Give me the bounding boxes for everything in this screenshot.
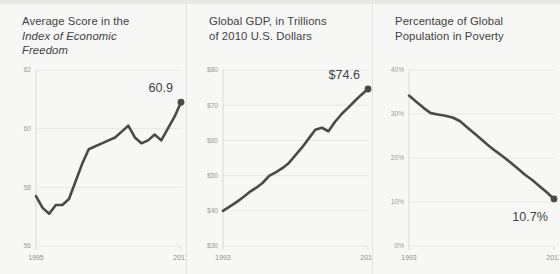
chart-end-point-marker <box>365 86 372 93</box>
chart-plot-global-gdp: $80$70$60$50$40$3019932015$74.6 <box>187 4 373 274</box>
chart-series-line <box>223 89 368 211</box>
y-axis-tick-label: 58 <box>24 184 32 191</box>
x-axis-tick-label: 1993 <box>215 254 230 261</box>
y-axis-tick-label: $50 <box>207 172 218 179</box>
chart-plot-economic-freedom: 626058561995201760.9 <box>0 4 186 274</box>
y-axis-tick-label: 40% <box>391 66 404 73</box>
y-axis-tick-label: 20% <box>391 154 404 161</box>
chart-series-line <box>36 102 181 213</box>
x-axis-tick-label: 2013 <box>546 254 559 261</box>
x-axis-tick-label: 1995 <box>28 254 43 261</box>
y-axis-tick-label: 56 <box>24 242 32 249</box>
chart-end-value-label: $74.6 <box>328 68 360 82</box>
x-axis-tick-label: 1993 <box>401 254 416 261</box>
y-axis-tick-label: $40 <box>207 207 218 214</box>
chart-svg-economic-freedom: 626058561995201760.9 <box>0 4 186 274</box>
chart-end-point-marker <box>178 99 185 106</box>
y-axis-tick-label: 62 <box>24 66 32 73</box>
y-axis-tick-label: $60 <box>207 137 218 144</box>
y-axis-tick-label: $30 <box>207 242 218 249</box>
chart-panel-global-poverty: Percentage of Global Population in Pover… <box>372 4 558 274</box>
y-axis-tick-label: 0% <box>394 242 404 249</box>
chart-panel-economic-freedom: Average Score in the Index of Economic F… <box>0 4 186 274</box>
chart-end-value-label: 60.9 <box>148 81 173 95</box>
y-axis-tick-label: $70 <box>207 102 218 109</box>
chart-svg-global-poverty: 40%30%20%10%0%1993201310.7% <box>373 4 559 274</box>
y-axis-tick-label: 60 <box>24 125 32 132</box>
chart-panel-row: Average Score in the Index of Economic F… <box>0 4 560 274</box>
chart-plot-global-poverty: 40%30%20%10%0%1993201310.7% <box>373 4 559 274</box>
chart-svg-global-gdp: $80$70$60$50$40$3019932015$74.6 <box>187 4 373 274</box>
chart-panel-global-gdp: Global GDP, in Trillions of 2010 U.S. Do… <box>186 4 372 274</box>
chart-end-point-marker <box>551 196 558 203</box>
chart-end-value-label: 10.7% <box>512 210 548 224</box>
chart-series-line <box>409 96 554 199</box>
y-axis-tick-label: 30% <box>391 110 404 117</box>
y-axis-tick-label: 10% <box>391 198 404 205</box>
y-axis-tick-label: $80 <box>207 66 218 73</box>
x-axis-tick-label: 2017 <box>173 254 186 261</box>
